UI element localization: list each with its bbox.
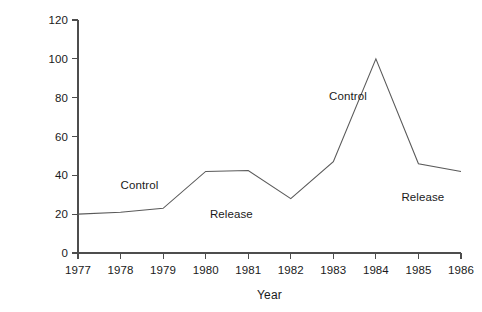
y-tick-label: 120 — [20, 14, 68, 27]
y-tick-label: 40 — [20, 169, 68, 182]
x-tick-label: 1984 — [363, 264, 389, 277]
x-tick-label: 1979 — [150, 264, 176, 277]
x-tick-label: 1985 — [405, 264, 431, 277]
x-tick-label: 1986 — [448, 264, 474, 277]
series-annotation: Control — [329, 90, 367, 102]
series-annotation: Release — [210, 208, 253, 220]
y-axis-title: Index of rabbit survival — [0, 75, 16, 199]
x-tick-label: 1981 — [235, 264, 261, 277]
x-tick-label: 1978 — [108, 264, 134, 277]
y-tick-label: 100 — [20, 52, 68, 65]
x-tick-label: 1983 — [320, 264, 346, 277]
y-tick-label: 0 — [20, 247, 68, 260]
chart-figure: 0204060801001201977197819791980198119821… — [0, 0, 482, 312]
x-tick-label: 1977 — [65, 264, 91, 277]
y-tick-label: 80 — [20, 91, 68, 104]
series-annotation: Control — [121, 179, 159, 191]
series-annotation: Release — [401, 191, 444, 203]
x-tick-label: 1980 — [193, 264, 219, 277]
x-axis-title: Year — [257, 288, 282, 302]
x-tick-label: 1982 — [278, 264, 304, 277]
y-tick-label: 60 — [20, 130, 68, 143]
y-tick-label: 20 — [20, 208, 68, 221]
